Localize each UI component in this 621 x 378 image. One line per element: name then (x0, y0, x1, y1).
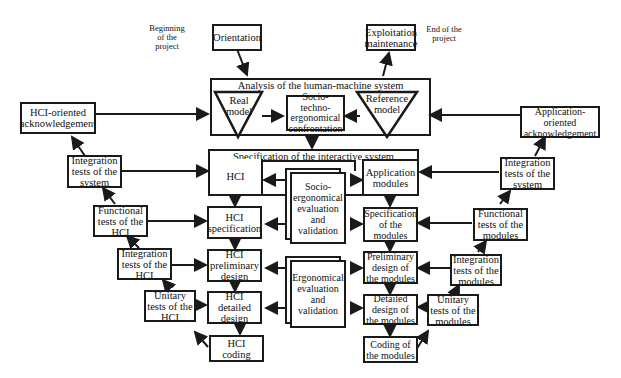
hci-specification-box[interactable]: HCI specification (207, 206, 262, 239)
functional-hci-tests-box[interactable]: Functional tests of the HCI (93, 205, 148, 237)
socio-ergonomical-evaluation-box[interactable]: Socio- ergonomical evaluation and valida… (290, 172, 346, 244)
modules-specification-box[interactable]: Specification of the modules (363, 207, 418, 242)
real-model-label: Real model (222, 95, 256, 117)
hci-coding-box[interactable]: HCI coding (209, 335, 264, 362)
confrontation-box[interactable]: Socio-techno- ergonomical confrontation (286, 95, 345, 131)
lifecycle-diagram: Beginning of the project End of the proj… (0, 0, 621, 378)
beginning-of-project-note: Beginning of the project (145, 24, 189, 51)
exploitation-maintenance-box[interactable]: Exploitation maintenance (366, 24, 416, 51)
hci-preliminary-design-box[interactable]: HCI preliminary design (207, 249, 262, 282)
orientation-box[interactable]: Orientation (212, 24, 262, 51)
end-of-project-note: End of the project (420, 25, 468, 43)
functional-modules-tests-box[interactable]: Functional tests of the modules (473, 208, 528, 241)
unitary-hci-tests-box[interactable]: Unitary tests of the HCI (144, 290, 196, 322)
application-acknowledgement-box[interactable]: Application-oriented acknowledgement (520, 106, 600, 138)
right-integration-system-tests-box[interactable]: Integration tests of the system (500, 157, 555, 190)
hci-acknowledgement-box[interactable]: HCI-oriented acknowledgement (20, 102, 96, 134)
integration-modules-tests-box[interactable]: Integration tests of the modules (450, 254, 502, 286)
application-modules-box[interactable]: Application modules (362, 159, 419, 196)
left-integration-system-tests-box[interactable]: Integration tests of the system (67, 155, 122, 188)
ergonomical-evaluation-box[interactable]: Ergonomical evaluation and validation (290, 260, 346, 328)
modules-preliminary-design-box[interactable]: Preliminary design of the modules (363, 251, 418, 284)
integration-hci-tests-box[interactable]: Integration tests of the HCI (117, 248, 172, 280)
modules-coding-box[interactable]: Coding of the modules (363, 336, 418, 363)
unitary-modules-tests-box[interactable]: Unitary tests of the modules (427, 294, 479, 326)
hci-box[interactable]: HCI (208, 159, 263, 196)
hci-detailed-design-box[interactable]: HCI detailed design (207, 291, 262, 324)
reference-model-label: Reference model (362, 93, 412, 115)
modules-detailed-design-box[interactable]: Detailed design of the modules (363, 294, 418, 325)
